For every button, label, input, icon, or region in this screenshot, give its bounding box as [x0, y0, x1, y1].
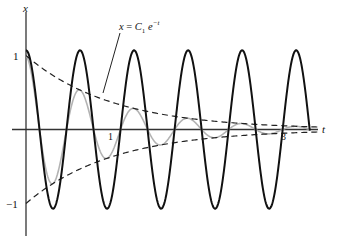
annotation-exp: −t [153, 19, 160, 27]
annotation-leader-line [103, 33, 120, 93]
x-axis-label: t [322, 124, 325, 135]
envelope-annotation: x = C1 e−t [119, 20, 159, 35]
annotation-c: C [135, 21, 142, 32]
annotation-e: e [145, 21, 152, 32]
chart-canvas [0, 0, 338, 245]
y-tick-label-1: 1 [13, 51, 19, 62]
y-tick-label-neg1: −1 [6, 199, 18, 210]
y-axis-label: x [23, 3, 28, 14]
x-tick-label-3: 3 [281, 132, 286, 142]
x-tick-label-1: 1 [108, 132, 113, 142]
annotation-eq: = [124, 21, 135, 32]
